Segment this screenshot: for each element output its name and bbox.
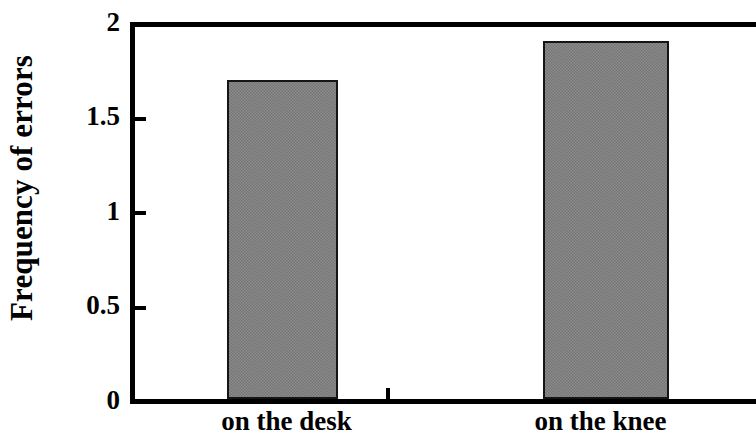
bar-on-the-desk [227,80,338,399]
y-axis-tick-mark [135,117,146,121]
x-axis-tick-mark [386,388,390,399]
y-axis-tick-label-group: 2 1.5 1 0.5 0 [44,0,120,442]
y-axis-tick-mark [135,211,146,215]
y-axis-tick-label: 1.5 [48,103,120,130]
bar-on-the-knee [543,41,669,399]
plot-frame [130,22,756,404]
plot-area [135,27,756,399]
y-axis-tick-label: 1 [48,198,120,225]
y-axis-tick-mark [135,306,146,310]
x-axis-category-label-on-the-desk: on the desk [196,408,377,435]
y-axis-tick-label: 0 [48,387,120,414]
y-axis-title: Frequency of errors [0,43,44,333]
y-axis-tick-label: 2 [48,9,120,36]
bar-chart: Frequency of errors 2 1.5 1 0.5 0 on the… [0,0,756,442]
y-axis-tick-label: 0.5 [48,292,120,319]
x-axis-category-label-on-the-knee: on the knee [510,408,691,435]
